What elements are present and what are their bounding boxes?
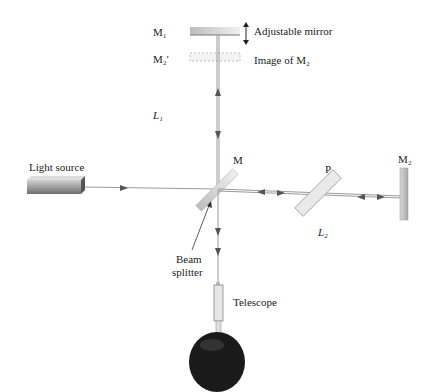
arrow-down-icon — [215, 228, 221, 236]
observer-head — [189, 332, 245, 392]
mirror-m1 — [190, 27, 240, 35]
label-beam: Beam — [176, 254, 202, 265]
arrow-down-icon — [215, 131, 221, 139]
diagram-graphics — [0, 0, 434, 392]
mirror-m2 — [400, 168, 408, 220]
label-l1: L₁ — [153, 110, 163, 121]
light-source-box — [27, 176, 85, 194]
label-telescope: Telescope — [233, 297, 277, 308]
label-light-source: Light source — [29, 162, 84, 173]
label-adjustable-mirror: Adjustable mirror — [254, 26, 333, 37]
label-m2-image: M₂′ — [153, 54, 169, 65]
arrow-right-icon — [120, 185, 128, 191]
telescope — [214, 282, 223, 339]
label-p: P — [325, 164, 331, 175]
double-arrow-icon — [243, 22, 249, 45]
interferometer-diagram: M₁ Adjustable mirror M₂′ Image of M₂ L₁ … — [0, 0, 434, 392]
label-l2: L₂ — [318, 227, 328, 238]
label-splitter: splitter — [172, 267, 203, 278]
label-m1: M₁ — [153, 27, 167, 38]
beam-source — [85, 187, 215, 189]
label-image-of-m2: Image of M₂ — [254, 55, 310, 66]
arrow-up-icon — [215, 88, 221, 96]
arrow-left-icon — [257, 189, 265, 195]
arrow-down-icon — [215, 248, 221, 256]
label-m: M — [233, 155, 243, 166]
mirror-m2-image — [190, 53, 240, 61]
label-m2: M₂ — [398, 154, 412, 165]
